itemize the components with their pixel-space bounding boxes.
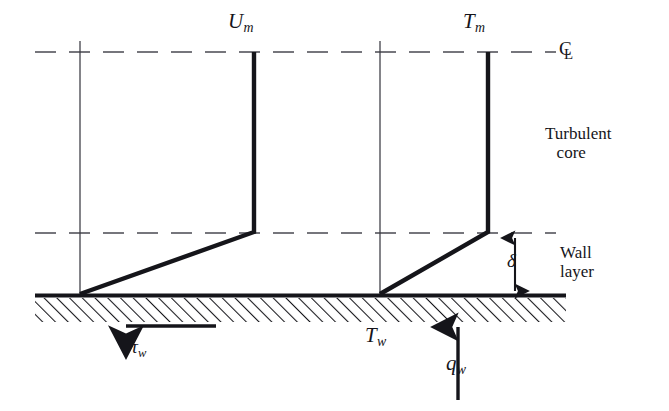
- wall-temperature-subscript: w: [377, 334, 386, 349]
- turbulent-core-label: Turbulent core: [545, 124, 611, 162]
- wall-temperature-label: Tw: [365, 324, 386, 348]
- wall-hatching: [35, 298, 566, 322]
- wall-temperature-symbol: T: [365, 323, 377, 347]
- wall-shear-stress-label: τw: [131, 336, 146, 357]
- wall-layer-line-2: layer: [560, 262, 594, 281]
- wall-heat-flux-symbol: q: [446, 351, 457, 375]
- wall-layer-line-1: Wall: [560, 243, 592, 262]
- wall-layer-thickness-label: δ: [507, 250, 516, 271]
- centerline-l-glyph: L: [564, 43, 573, 65]
- temperature-mean-subscript: m: [475, 20, 485, 35]
- wall-shear-stress-subscript: w: [138, 346, 146, 360]
- temperature-mean-symbol: T: [463, 9, 475, 33]
- velocity-mean-subscript: m: [243, 20, 253, 35]
- turbulent-core-line-2: core: [545, 143, 611, 162]
- turbulent-core-line-1: Turbulent: [545, 124, 611, 143]
- temperature-mean-label: Tm: [463, 10, 485, 34]
- wall-shear-stress-symbol: τ: [131, 336, 138, 357]
- centerline-symbol-label: C L: [559, 38, 578, 64]
- figure-root: Um Tm C L Turbulent core Wall layer δ τw…: [0, 0, 669, 411]
- wall-layer-label: Wall layer: [560, 243, 594, 281]
- centerline-icon: C L: [559, 38, 578, 60]
- velocity-mean-symbol: U: [228, 9, 243, 33]
- wall-heat-flux-label: qw: [446, 352, 466, 376]
- wall-heat-flux-subscript: w: [457, 362, 466, 377]
- velocity-mean-label: Um: [228, 10, 253, 34]
